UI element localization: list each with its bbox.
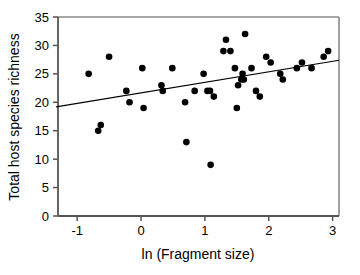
data-point — [123, 88, 130, 95]
data-point — [200, 71, 207, 78]
y-tick-label: 35 — [35, 10, 49, 25]
data-point — [239, 71, 246, 78]
data-point — [241, 76, 248, 83]
data-point — [232, 65, 239, 72]
data-point — [235, 82, 242, 89]
y-tick-label: 5 — [42, 180, 49, 195]
data-point — [257, 93, 264, 100]
data-point — [263, 54, 270, 61]
data-point — [140, 105, 147, 112]
data-point — [183, 139, 190, 146]
data-point — [207, 162, 214, 169]
data-point — [277, 71, 284, 78]
x-tick-label: 0 — [137, 223, 144, 238]
data-point — [211, 93, 218, 100]
data-point — [159, 88, 166, 95]
x-tick-label: 3 — [329, 223, 336, 238]
data-point — [248, 65, 255, 72]
y-tick-label: 25 — [35, 66, 49, 81]
data-point — [299, 59, 306, 66]
scatter-plot-figure: 05101520253035 -10123 ln (Fragment size)… — [0, 0, 360, 275]
data-point — [253, 88, 260, 95]
data-point — [242, 31, 249, 38]
data-point — [169, 65, 176, 72]
data-point — [325, 48, 332, 55]
data-point — [95, 127, 102, 134]
plot-canvas: 05101520253035 -10123 ln (Fragment size)… — [0, 0, 360, 275]
x-axis-title: ln (Fragment size) — [142, 246, 255, 262]
data-point — [223, 36, 230, 43]
y-tick-label: 30 — [35, 38, 49, 53]
data-point — [139, 65, 146, 72]
data-point — [320, 54, 327, 61]
data-point — [267, 59, 274, 66]
figure-background — [0, 0, 360, 275]
y-tick-label: 20 — [35, 95, 49, 110]
data-point — [191, 88, 198, 95]
y-axis-title: Total host species richness — [6, 33, 22, 200]
data-point — [106, 54, 113, 61]
data-point — [234, 105, 241, 112]
x-tick-label: -1 — [71, 223, 83, 238]
y-tick-label: 0 — [42, 209, 49, 224]
x-tick-label: 1 — [201, 223, 208, 238]
data-point — [280, 76, 287, 83]
data-point — [227, 48, 234, 55]
x-tick-label: 2 — [265, 223, 272, 238]
data-point — [220, 48, 227, 55]
data-point — [182, 99, 189, 106]
data-point — [207, 88, 214, 95]
data-point — [294, 65, 301, 72]
y-tick-label: 15 — [35, 123, 49, 138]
data-point — [308, 65, 315, 72]
y-tick-label: 10 — [35, 152, 49, 167]
data-point — [126, 99, 133, 106]
data-point — [85, 71, 92, 78]
data-point — [158, 82, 165, 89]
data-point — [97, 122, 104, 129]
